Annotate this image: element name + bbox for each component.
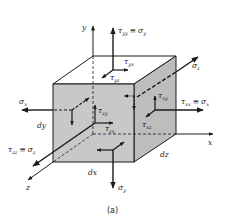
tau-zz-label: τzz≡σz [8,145,36,155]
sigma-y-bottom-label: σy [118,183,126,194]
x-axis-label: x [208,138,213,147]
cube-front-face [53,84,134,162]
dy-label: dy [37,121,47,130]
tau-yy-label: τyy≡σy [118,26,146,37]
z-axis-label: z [25,183,30,192]
svg-text:τyy≡σy: τyy≡σy [118,26,146,37]
figure-caption: (a) [107,206,118,215]
dz-label: dz [160,150,169,159]
tau-xx-label: τxx≡σx [181,97,209,107]
sigma-x-left-label: σx [19,97,27,107]
stress-element-diagram: y x z τyy≡σy τyx τyz σz τxy τx [0,0,227,220]
z-axis-arrow [28,162,53,180]
sigma-z-label: σz [192,61,200,71]
cube [53,56,176,162]
y-axis-label: y [81,23,87,32]
dx-label: dx [88,168,98,177]
